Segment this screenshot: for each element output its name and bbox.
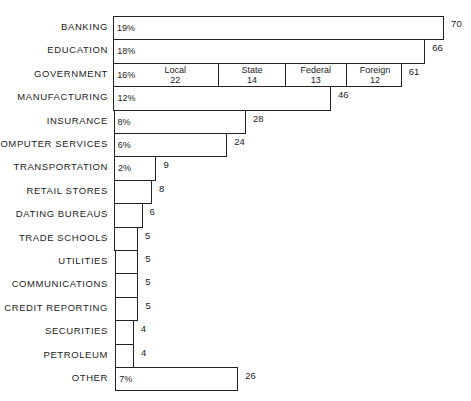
bar: [113, 39, 425, 63]
value-label: 6: [150, 206, 155, 218]
category-label: PETROLEUM: [43, 349, 108, 361]
bar: [113, 86, 331, 110]
category-label: TRANSPORTATION: [14, 161, 108, 173]
category-label: GOVERNMENT: [34, 68, 108, 80]
segment-federal: Federal13: [285, 64, 346, 86]
bar: [115, 250, 139, 274]
category-label: MANUFACTURING: [17, 91, 108, 103]
bar: [114, 203, 142, 227]
segment-name: State: [219, 65, 284, 75]
category-label: DATING BUREAUS: [16, 208, 108, 220]
segment-name: Foreign: [347, 65, 403, 75]
percent-label: 2%: [118, 162, 131, 174]
segment-value: 12: [347, 75, 403, 85]
value-label: 28: [253, 113, 264, 125]
value-label: 5: [145, 253, 150, 265]
value-label: 5: [145, 230, 150, 242]
category-label: UTILITIES: [58, 255, 108, 267]
category-label: RETAIL STORES: [26, 185, 108, 197]
segment-name: Local: [132, 65, 218, 75]
horizontal-bar-chart: BANKING19%70EDUCATION18%66GOVERNMENTLoca…: [0, 0, 471, 401]
category-label: INSURANCE: [47, 115, 108, 127]
value-label: 70: [451, 18, 462, 30]
percent-label: 8%: [118, 116, 131, 128]
bar: [114, 227, 138, 251]
value-label: 26: [245, 370, 256, 382]
segment-state: State14: [218, 64, 284, 86]
segment-value: 14: [219, 75, 284, 85]
bar: [114, 180, 152, 204]
percent-label: 12%: [117, 92, 135, 104]
value-label: 46: [338, 89, 349, 101]
percent-label: 18%: [117, 45, 135, 57]
value-label: 5: [145, 276, 150, 288]
category-label: SECURITIES: [45, 325, 108, 337]
value-label: 24: [234, 136, 245, 148]
percent-label: 7%: [119, 373, 132, 385]
category-label: COMMUNICATIONS: [12, 278, 108, 290]
bar: [115, 344, 134, 368]
category-label: COMPUTER SERVICES: [0, 138, 108, 150]
value-label: 61: [409, 66, 420, 78]
bar: [115, 273, 139, 297]
value-label: 8: [159, 183, 164, 195]
value-label: 5: [145, 300, 150, 312]
segment-value: 13: [286, 75, 346, 85]
segment-name: Federal: [286, 65, 346, 75]
bar: [114, 133, 228, 157]
value-label: 66: [432, 42, 443, 54]
bar: [115, 297, 139, 321]
category-label: BANKING: [61, 21, 108, 33]
bar: [115, 367, 238, 391]
percent-label: 16%: [117, 69, 135, 81]
segment-foreign: Foreign12: [346, 64, 403, 86]
category-label: TRADE SCHOOLS: [19, 232, 108, 244]
value-label: 4: [141, 323, 146, 335]
value-label: 9: [163, 159, 168, 171]
bar: [115, 320, 134, 344]
category-label: OTHER: [72, 372, 108, 384]
bar: [113, 16, 444, 40]
bar: Local22State14Federal13Foreign12: [113, 63, 402, 87]
bar: [114, 110, 246, 134]
segment-value: 22: [132, 75, 218, 85]
category-label: EDUCATION: [47, 44, 108, 56]
percent-label: 19%: [117, 22, 135, 34]
category-label: CREDIT REPORTING: [4, 302, 108, 314]
percent-label: 6%: [118, 139, 131, 151]
value-label: 4: [141, 347, 146, 359]
